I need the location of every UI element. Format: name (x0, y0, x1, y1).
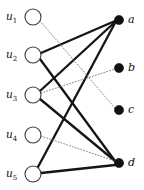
node-label-text: u (6, 10, 13, 22)
node-label-a: a (128, 14, 135, 25)
node-label-subscript: 4 (13, 135, 17, 143)
node-label-text: u (6, 88, 13, 100)
node-label-d: d (128, 157, 135, 168)
node-label-subscript: 2 (13, 55, 17, 63)
edge-u3-a (40, 22, 115, 91)
edge-u2-a (41, 21, 115, 53)
node-a[interactable] (114, 15, 123, 24)
node-u5[interactable] (25, 166, 41, 182)
node-label-c: c (128, 104, 134, 115)
node-label-text: u (6, 48, 13, 60)
node-label-subscript: 1 (13, 17, 17, 25)
node-label-u1: u1 (6, 11, 17, 25)
bipartite-graph-figure: u1u2u3u4u5abcd (0, 0, 144, 190)
graph-canvas (0, 0, 144, 190)
edge-u2-d (40, 59, 115, 161)
node-label-b: b (128, 62, 135, 73)
node-label-subscript: 3 (13, 95, 17, 103)
node-u2[interactable] (25, 47, 41, 63)
node-label-u5: u5 (6, 168, 17, 182)
node-label-u2: u2 (6, 49, 17, 63)
edge-u5-d (41, 165, 115, 173)
node-u1[interactable] (25, 9, 41, 25)
node-label-subscript: 5 (13, 174, 17, 182)
node-c[interactable] (114, 105, 123, 114)
node-label-text: u (6, 128, 13, 140)
node-b[interactable] (114, 63, 123, 72)
node-label-u4: u4 (6, 129, 17, 143)
node-u3[interactable] (25, 87, 41, 103)
node-d[interactable] (114, 158, 123, 167)
edge-u4-d (41, 136, 115, 161)
edges-layer (38, 21, 115, 173)
node-label-u3: u3 (6, 89, 17, 103)
node-label-text: u (6, 167, 13, 179)
node-u4[interactable] (25, 127, 41, 143)
